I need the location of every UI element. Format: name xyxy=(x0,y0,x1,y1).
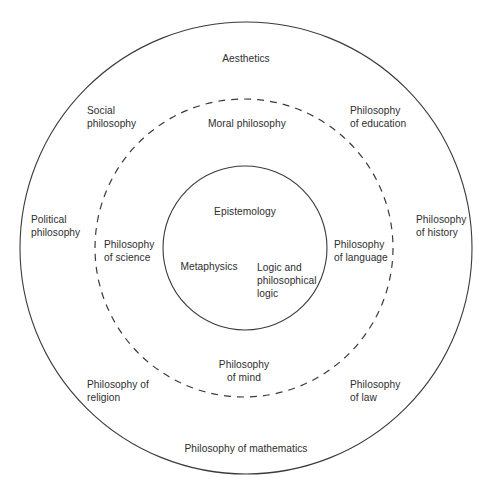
middle-ring-circle xyxy=(95,99,393,397)
bottom-margin-band xyxy=(0,487,491,501)
concentric-rings xyxy=(0,0,491,501)
core-ring-circle xyxy=(163,166,327,330)
outer-ring-circle xyxy=(20,22,472,474)
philosophy-ring-diagram: Aesthetics Social philosophy Philosophy … xyxy=(0,0,491,501)
